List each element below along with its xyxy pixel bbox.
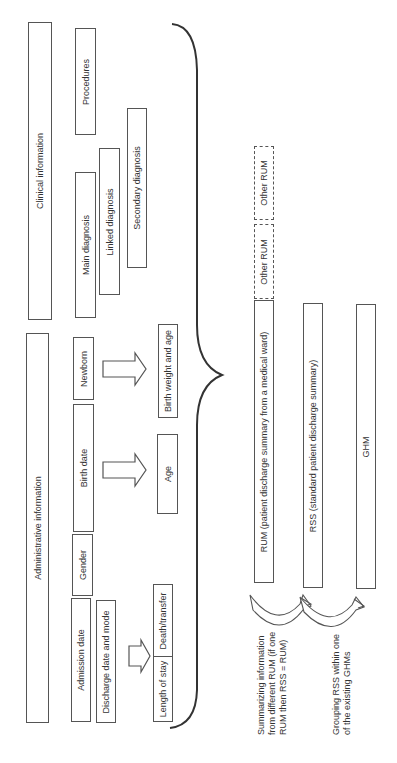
curly-brace-icon [170, 24, 222, 728]
diagram-graphics [0, 0, 397, 763]
block-arrow-discharge-icon [129, 640, 150, 672]
block-arrow-newborn-icon [103, 353, 146, 385]
block-arrow-birth-date-icon [103, 454, 146, 486]
curved-arrow-rss-to-ghm-icon [300, 597, 364, 627]
